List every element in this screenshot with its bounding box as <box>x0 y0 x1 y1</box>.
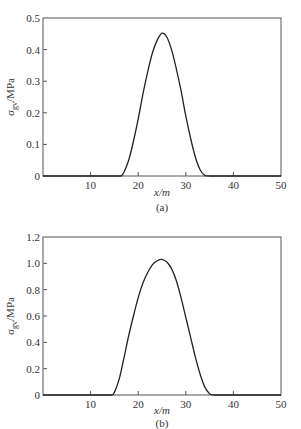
y-axis-ticks: 00.10.20.30.40.5 <box>26 12 47 182</box>
y-axis-label: σgv/MPa <box>4 78 19 116</box>
x-tick-label: 10 <box>85 179 97 191</box>
y-tick-label: 0.5 <box>26 12 40 24</box>
x-axis-ticks: 1020304050 <box>85 391 287 410</box>
x-tick-label: 50 <box>276 398 288 410</box>
panel-label: (a) <box>156 201 169 214</box>
y-tick-label: 1.0 <box>26 257 40 269</box>
x-tick-label: 20 <box>133 398 145 410</box>
x-tick-label: 40 <box>228 179 240 191</box>
y-axis-ticks: 00.20.40.60.81.01.2 <box>26 231 47 401</box>
x-axis-ticks: 1020304050 <box>85 172 287 191</box>
x-axis-label: x/m <box>153 404 170 416</box>
chart-panel-b: 00.20.40.60.81.01.2 1020304050 σgv/MPa x… <box>4 231 287 429</box>
y-tick-label: 0.4 <box>26 336 40 348</box>
y-tick-label: 0.2 <box>26 363 40 375</box>
x-tick-label: 40 <box>228 398 240 410</box>
plot-frame <box>43 18 281 176</box>
y-tick-label: 0.2 <box>26 107 40 119</box>
figure: 00.10.20.30.40.5 1020304050 σgv/MPa x/m … <box>0 0 301 429</box>
y-tick-label: 0.6 <box>26 310 40 322</box>
y-axis-label: σgv/MPa <box>4 297 19 335</box>
y-tick-label: 0.4 <box>26 44 40 56</box>
y-tick-label: 0 <box>35 170 41 182</box>
y-tick-label: 0 <box>35 389 41 401</box>
x-tick-label: 20 <box>133 179 145 191</box>
x-tick-label: 50 <box>276 179 288 191</box>
y-tick-label: 1.2 <box>26 231 40 243</box>
y-tick-label: 0.1 <box>26 138 40 150</box>
y-tick-label: 0.3 <box>26 75 40 87</box>
data-line <box>43 259 281 395</box>
x-tick-label: 10 <box>85 398 97 410</box>
y-tick-label: 0.8 <box>26 284 40 296</box>
chart-panel-a: 00.10.20.30.40.5 1020304050 σgv/MPa x/m … <box>4 12 287 214</box>
plot-frame <box>43 237 281 395</box>
panel-label: (b) <box>156 417 169 429</box>
data-line <box>43 33 281 176</box>
x-tick-label: 30 <box>180 398 192 410</box>
x-axis-label: x/m <box>153 186 170 198</box>
x-tick-label: 30 <box>180 179 192 191</box>
